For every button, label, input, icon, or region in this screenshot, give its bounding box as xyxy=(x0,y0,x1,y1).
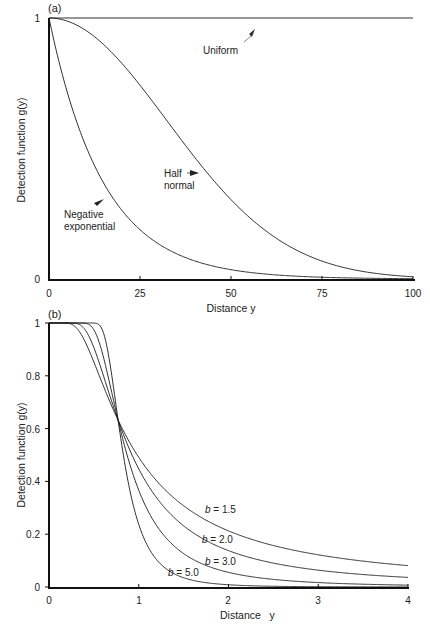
panel-a: (a) 1 0 0 25 50 75 100 Distance y Detect… xyxy=(15,2,422,314)
panel-b-xtick-label: 1 xyxy=(136,595,142,606)
panel-b-ytick-label: 0.4 xyxy=(26,476,40,487)
panel-a-xtick-label: 25 xyxy=(134,288,146,299)
figure: (a) 1 0 0 25 50 75 100 Distance y Detect… xyxy=(0,0,430,625)
panel-b-ytick-label: 1 xyxy=(34,318,40,329)
b-1.5-label: b = 1.5 xyxy=(205,504,236,515)
panel-a-label: (a) xyxy=(48,2,61,14)
panel-b-xtick-label: 0 xyxy=(46,595,52,606)
panel-b-xtick-label: 2 xyxy=(225,595,231,606)
panel-a-xtick-label: 75 xyxy=(316,288,328,299)
half-normal-label-line2: normal xyxy=(164,180,195,191)
negative-exponential-arrow-icon xyxy=(94,199,104,206)
panel-a-xtick-label: 0 xyxy=(46,288,52,299)
hazard-rate-curve-b-5 xyxy=(49,323,408,587)
panel-b-xtick-label: 4 xyxy=(405,595,411,606)
panel-b-ytick-label: 0.2 xyxy=(26,529,40,540)
panel-b-ytick-label: 0 xyxy=(34,582,40,593)
panel-a-ytick-1: 1 xyxy=(34,13,40,24)
negative-exponential-label-line2: exponential xyxy=(64,221,115,232)
panel-b-x-axis-title: Distance y xyxy=(220,609,276,621)
half-normal-curve xyxy=(49,18,413,277)
panel-b-xtick-label: 3 xyxy=(315,595,321,606)
uniform-arrow-icon xyxy=(244,29,255,42)
hazard-rate-curves xyxy=(49,323,408,587)
half-normal-label-line1: Half xyxy=(164,168,182,179)
panel-b-ytick-label: 0.6 xyxy=(26,424,40,435)
b-2.0-label: b = 2.0 xyxy=(202,534,233,545)
panel-b-label: (b) xyxy=(48,308,61,320)
panel-a-x-axis-title: Distance y xyxy=(206,302,256,314)
b-5.0-label: b = 5.0 xyxy=(168,567,199,578)
panel-a-y-axis-title: Detection function g(y) xyxy=(15,97,27,202)
panel-b-ytick-label: 0.8 xyxy=(26,371,40,382)
panel-a-xtick-label: 100 xyxy=(405,288,422,299)
uniform-label: Uniform xyxy=(203,45,238,56)
hazard-rate-curve-b-1.5 xyxy=(49,323,408,566)
panel-a-xtick-label: 50 xyxy=(225,288,237,299)
panel-a-ytick-0: 0 xyxy=(34,274,40,285)
negative-exponential-curve xyxy=(49,18,413,279)
b-3.0-label: b = 3.0 xyxy=(205,556,236,567)
half-normal-arrow-icon xyxy=(187,170,199,176)
panel-b: (b) 1 0.8 0.6 0.4 0.2 0 0 1 2 3 4 Distan… xyxy=(15,308,411,621)
panel-b-y-axis-title: Detection function g(y) xyxy=(15,402,27,507)
negative-exponential-label-line1: Negative xyxy=(64,209,104,220)
hazard-rate-curve-b-3 xyxy=(49,323,408,585)
